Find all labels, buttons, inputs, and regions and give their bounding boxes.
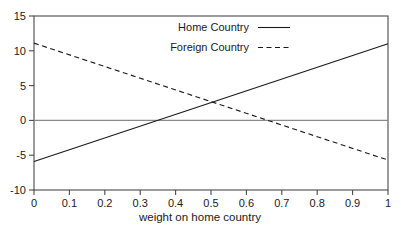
x-tick-label: 0.8 [310, 197, 325, 209]
legend-label-foreign-country: Foreign Country [170, 41, 249, 53]
x-tick-label: 0.4 [168, 197, 183, 209]
x-tick-label: 0.5 [203, 197, 218, 209]
y-tick-label: -5 [16, 149, 26, 161]
x-tick-label: 0.1 [62, 197, 77, 209]
x-tick-label: 0.2 [97, 197, 112, 209]
chart-background [0, 0, 401, 235]
x-tick-label: 0 [31, 197, 37, 209]
x-tick-label: 0.9 [345, 197, 360, 209]
x-tick-label: 0.3 [133, 197, 148, 209]
y-tick-label: 15 [14, 10, 26, 22]
chart-figure: 151050-5-10 00.10.20.30.40.50.60.70.80.9… [0, 0, 401, 235]
x-tick-label: 1 [385, 197, 391, 209]
legend-label-home-country: Home Country [178, 21, 249, 33]
x-axis-label: weight on home country [138, 211, 261, 223]
line-chart: 151050-5-10 00.10.20.30.40.50.60.70.80.9… [0, 0, 401, 235]
y-tick-label: -10 [10, 184, 26, 196]
y-tick-label: 0 [20, 114, 26, 126]
x-tick-label: 0.6 [239, 197, 254, 209]
y-tick-label: 10 [14, 45, 26, 57]
x-tick-label: 0.7 [274, 197, 289, 209]
y-tick-label: 5 [20, 80, 26, 92]
